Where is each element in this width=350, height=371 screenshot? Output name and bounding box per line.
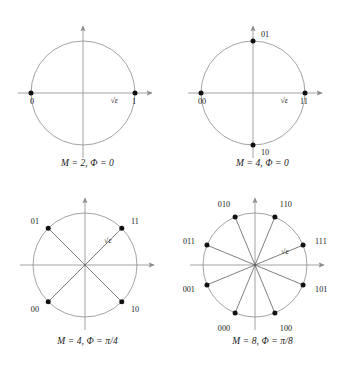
constellation-point xyxy=(46,299,51,304)
point-label: 00 xyxy=(198,97,206,106)
constellation-plot-qpsk-pi4: 11010010√ε xyxy=(0,190,175,340)
point-label: 0 xyxy=(30,97,34,106)
amplitude-label: √ε xyxy=(110,96,118,105)
constellation-point xyxy=(301,282,306,287)
constellation-point xyxy=(204,282,209,287)
point-label: 001 xyxy=(183,285,195,294)
constellation-point xyxy=(301,243,306,248)
constellation-plot-bpsk: 10√ε xyxy=(0,0,175,165)
point-label: 011 xyxy=(183,237,195,246)
point-label: 111 xyxy=(315,237,327,246)
constellation-point xyxy=(204,243,209,248)
constellation-point xyxy=(46,226,51,231)
point-label: 101 xyxy=(315,285,327,294)
constellation-point xyxy=(272,214,277,219)
constellation-point xyxy=(233,214,238,219)
point-label: 00 xyxy=(31,305,39,314)
amplitude-label: √ε xyxy=(281,247,289,256)
point-label: 100 xyxy=(280,324,292,333)
panel-qpsk-pi4: 11010010√ε M = 4, Φ = π/4 xyxy=(0,190,175,371)
constellation-point xyxy=(303,91,308,96)
panel-8psk-pi8: 111110010011001000100101√ε M = 8, Φ = π/… xyxy=(175,190,350,371)
constellation-point xyxy=(29,91,34,96)
panel-qpsk-0: 11010010√ε M = 4, Φ = 0 xyxy=(175,0,350,185)
point-label: 11 xyxy=(131,217,139,226)
point-label: 01 xyxy=(31,217,39,226)
panel-bpsk: 10√ε M = 2, Φ = 0 xyxy=(0,0,175,185)
point-label: 10 xyxy=(261,148,269,157)
point-label: 010 xyxy=(218,200,230,209)
point-label: 1 xyxy=(132,97,136,106)
point-label: 11 xyxy=(300,97,308,106)
constellation-point xyxy=(251,39,256,44)
point-label: 01 xyxy=(261,30,269,39)
spoke xyxy=(48,228,85,265)
point-label: 10 xyxy=(131,305,139,314)
constellation-point xyxy=(133,91,138,96)
constellation-plot-8psk-pi8: 111110010011001000100101√ε xyxy=(175,190,350,340)
panel-caption-8psk-pi8: M = 8, Φ = π/8 xyxy=(175,336,350,346)
amplitude-label: √ε xyxy=(280,96,288,105)
constellation-point xyxy=(272,311,277,316)
panel-caption-qpsk-0: M = 4, Φ = 0 xyxy=(175,158,350,168)
point-label: 000 xyxy=(218,324,230,333)
panel-caption-qpsk-pi4: M = 4, Φ = π/4 xyxy=(0,336,175,346)
constellation-point xyxy=(119,226,124,231)
constellation-plot-qpsk-0: 11010010√ε xyxy=(175,0,350,165)
point-label: 110 xyxy=(280,200,292,209)
spoke xyxy=(85,228,122,265)
constellation-point xyxy=(199,91,204,96)
constellation-point xyxy=(119,299,124,304)
spoke xyxy=(48,265,85,302)
amplitude-label: √ε xyxy=(104,236,112,245)
psk-constellation-figure: 10√ε M = 2, Φ = 0 11010010√ε M = 4, Φ = … xyxy=(0,0,350,371)
panel-caption-bpsk: M = 2, Φ = 0 xyxy=(0,158,175,168)
spoke xyxy=(85,265,122,302)
constellation-point xyxy=(233,311,238,316)
constellation-point xyxy=(251,143,256,148)
